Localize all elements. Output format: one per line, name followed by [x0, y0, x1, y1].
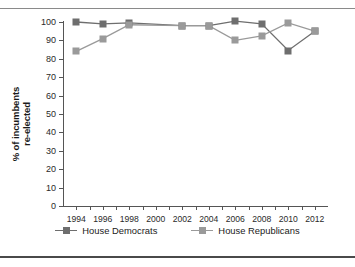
y-tick-label: 10: [46, 183, 56, 193]
data-point-marker: [99, 20, 106, 27]
x-tick-label: 2012: [305, 214, 324, 224]
data-point-marker: [285, 47, 292, 54]
x-tick: [209, 206, 210, 210]
legend-label: House Republicans: [218, 225, 299, 236]
data-point-marker: [258, 32, 265, 39]
data-point-marker: [311, 28, 318, 35]
y-tick-label: 90: [46, 35, 56, 45]
y-tick-label: 100: [41, 17, 56, 27]
y-axis-title-line2: re-elected: [21, 102, 32, 146]
data-point-marker: [179, 22, 186, 29]
y-tick-label: 70: [46, 72, 56, 82]
y-axis-title-line1: % of incumbents: [10, 87, 21, 162]
y-tick-label: 0: [51, 201, 56, 211]
plot-area: 0102030405060708090100 19941996199820002…: [63, 22, 328, 206]
x-tick-label: 1996: [93, 214, 112, 224]
x-tick-label: 2010: [279, 214, 298, 224]
x-tick: [315, 206, 316, 210]
data-point-marker: [232, 37, 239, 44]
legend-label: House Democrats: [82, 225, 157, 236]
data-point-marker: [126, 21, 133, 28]
y-tick-label: 60: [46, 91, 56, 101]
x-tick-label: 1998: [120, 214, 139, 224]
x-tick: [169, 206, 170, 210]
y-tick-label: 30: [46, 146, 56, 156]
series-line: [76, 23, 315, 52]
x-tick: [288, 206, 289, 210]
x-tick: [222, 206, 223, 210]
x-tick: [116, 206, 117, 210]
data-point-marker: [258, 20, 265, 27]
data-point-marker: [285, 19, 292, 26]
x-tick: [302, 206, 303, 210]
legend-marker-icon: [191, 226, 213, 235]
x-tick: [262, 206, 263, 210]
x-tick-label: 2000: [146, 214, 165, 224]
x-tick-label: 2006: [226, 214, 245, 224]
x-tick-label: 1994: [67, 214, 86, 224]
data-point-marker: [73, 48, 80, 55]
legend-item[interactable]: House Democrats: [55, 225, 157, 236]
y-axis-title: % of incumbents re-elected: [10, 54, 32, 194]
data-point-marker: [99, 35, 106, 42]
x-tick-label: 2004: [199, 214, 218, 224]
figure: % of incumbents re-elected 0102030405060…: [0, 9, 355, 255]
y-tick-label: 40: [46, 127, 56, 137]
y-tick: [59, 206, 63, 207]
x-tick: [156, 206, 157, 210]
x-tick: [90, 206, 91, 210]
data-point-marker: [232, 18, 239, 25]
x-tick: [143, 206, 144, 210]
x-tick: [76, 206, 77, 210]
x-tick: [182, 206, 183, 210]
y-tick-label: 80: [46, 54, 56, 64]
x-tick: [235, 206, 236, 210]
data-point-marker: [205, 22, 212, 29]
chart-screenshot: % of incumbents re-elected 0102030405060…: [0, 0, 355, 267]
chart-legend: House DemocratsHouse Republicans: [0, 225, 355, 236]
x-tick: [129, 206, 130, 210]
x-tick-label: 2002: [173, 214, 192, 224]
x-tick: [196, 206, 197, 210]
y-tick-label: 50: [46, 109, 56, 119]
x-tick: [103, 206, 104, 210]
legend-item[interactable]: House Republicans: [191, 225, 299, 236]
x-tick: [275, 206, 276, 210]
bottom-divider: [0, 256, 355, 258]
data-point-marker: [73, 19, 80, 26]
legend-marker-icon: [55, 226, 77, 235]
x-tick: [249, 206, 250, 210]
x-tick-label: 2008: [252, 214, 271, 224]
y-tick-label: 20: [46, 164, 56, 174]
